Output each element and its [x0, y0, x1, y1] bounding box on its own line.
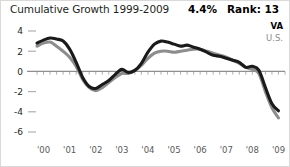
x-axis-tick-label: '05 — [167, 145, 180, 155]
x-axis-ticks: '00'01'02'03'04'05'06'07'08'09 — [37, 145, 285, 155]
x-axis-tick-label: '07 — [220, 145, 233, 155]
x-axis-tick-label: '04 — [141, 145, 154, 155]
rank-badge: Rank: 13 — [227, 3, 279, 15]
chart-card: Cumulative Growth 1999-2009 4.4% Rank: 1… — [0, 0, 290, 167]
growth-value: 4.4% — [188, 3, 217, 15]
x-axis-tick-label: '09 — [272, 145, 285, 155]
y-axis-tick-label: 0 — [17, 67, 23, 77]
series-line-va — [37, 38, 278, 111]
x-axis-tick-label: '01 — [63, 145, 76, 155]
x-axis-tick-label: '00 — [37, 145, 50, 155]
x-axis-tick-label: '02 — [89, 145, 102, 155]
x-axis-tick-label: '06 — [194, 145, 207, 155]
page-title: Cumulative Growth 1999-2009 — [10, 3, 169, 15]
y-axis-ticks: 420-2-4-6 — [14, 26, 36, 137]
line-chart-svg: 420-2-4-6 '00'01'02'03'04'05'06'07'08'09 — [1, 20, 290, 167]
y-axis-tick-label: -2 — [14, 87, 23, 97]
y-axis-tick-label: 4 — [17, 26, 23, 36]
y-axis-tick-label: -6 — [14, 127, 23, 137]
x-axis-tick-label: '03 — [115, 145, 128, 155]
chart-header: Cumulative Growth 1999-2009 4.4% Rank: 1… — [1, 1, 290, 20]
y-axis-tick-label: -4 — [14, 107, 23, 117]
chart-plot-area: 420-2-4-6 '00'01'02'03'04'05'06'07'08'09 — [1, 20, 290, 167]
x-axis-tick-label: '08 — [246, 145, 259, 155]
y-axis-tick-label: 2 — [17, 47, 23, 57]
